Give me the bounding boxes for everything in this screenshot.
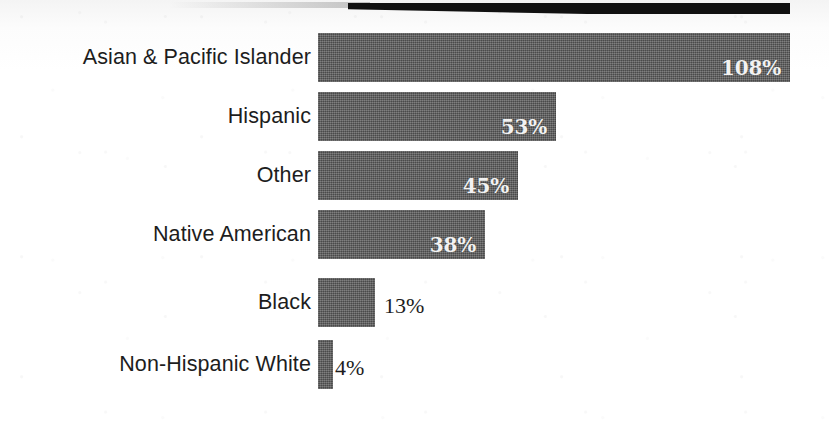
bar-fill: 53%: [318, 92, 556, 141]
bar-row: Native American 38%: [0, 210, 829, 259]
bar-row: Non-Hispanic White 4%: [0, 340, 829, 389]
bar-value-label: 53%: [501, 115, 547, 139]
bar-fill: [318, 340, 333, 389]
bar-value-label: 45%: [463, 174, 509, 198]
bar-fill: 38%: [318, 210, 485, 259]
bar-value-label: 4%: [335, 340, 364, 389]
bar-value-label: 13%: [384, 278, 424, 327]
bar-category-label: Non-Hispanic White: [119, 340, 311, 389]
bar-value-label: 38%: [430, 233, 476, 257]
bar-row: Black 13%: [0, 278, 829, 327]
bar-row: Asian & Pacific Islander 108%: [0, 33, 829, 82]
bar-track: 53%: [318, 92, 556, 141]
bar-category-label: Hispanic: [228, 92, 311, 141]
bar-track: [318, 278, 375, 327]
bar-row: Hispanic 53%: [0, 92, 829, 141]
bar-track: 108%: [318, 33, 790, 82]
bar-track: 38%: [318, 210, 485, 259]
bar-track: [318, 340, 333, 389]
bar-fill: 45%: [318, 151, 518, 200]
plot-area: Asian & Pacific Islander 108% Hispanic 5…: [0, 0, 829, 422]
bar-row: Other 45%: [0, 151, 829, 200]
bar-category-label: Asian & Pacific Islander: [83, 33, 311, 82]
bar-category-label: Other: [257, 151, 311, 200]
bar-value-label: 108%: [721, 56, 781, 80]
bar-track: 45%: [318, 151, 518, 200]
bar-fill: 108%: [318, 33, 790, 82]
bar-category-label: Black: [258, 278, 311, 327]
bar-chart-figure: Asian & Pacific Islander 108% Hispanic 5…: [0, 0, 829, 422]
bar-fill: [318, 278, 375, 327]
bar-category-label: Native American: [153, 210, 311, 259]
